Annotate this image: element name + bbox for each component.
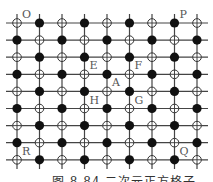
point-label-e: E — [90, 59, 98, 72]
filled-node-icon — [80, 121, 89, 130]
filled-node-icon — [192, 138, 201, 147]
filled-node-icon — [35, 121, 44, 130]
filled-node-icon — [35, 18, 44, 27]
filled-node-icon — [125, 87, 134, 96]
filled-node-icon — [125, 121, 134, 130]
open-cross-node-icon — [58, 53, 67, 62]
open-cross-node-icon — [148, 87, 157, 96]
filled-node-icon — [57, 138, 66, 147]
open-cross-node-icon — [193, 53, 202, 62]
open-cross-node-icon — [103, 121, 112, 130]
open-cross-node-icon — [58, 156, 67, 165]
filled-node-icon — [12, 36, 21, 45]
filled-node-icon — [80, 53, 89, 62]
filled-node-icon — [102, 70, 111, 79]
filled-node-icon — [170, 18, 179, 27]
open-cross-node-icon — [170, 104, 179, 113]
filled-node-icon — [57, 36, 66, 45]
filled-node-icon — [147, 138, 156, 147]
open-cross-node-icon — [125, 104, 134, 113]
filled-node-icon — [12, 70, 21, 79]
open-cross-node-icon — [35, 138, 44, 147]
open-cross-node-icon — [170, 138, 179, 147]
filled-node-icon — [147, 104, 156, 113]
figure-caption: 图 8.84 二次元正方格子 — [52, 172, 196, 182]
filled-node-icon — [35, 155, 44, 164]
filled-node-icon — [57, 104, 66, 113]
open-cross-node-icon — [13, 121, 22, 130]
open-cross-node-icon — [35, 104, 44, 113]
open-cross-node-icon — [13, 87, 22, 96]
open-cross-node-icon — [148, 53, 157, 62]
filled-node-icon — [102, 36, 111, 45]
point-label-o: O — [22, 8, 31, 21]
open-cross-node-icon — [103, 87, 112, 96]
filled-node-icon — [170, 155, 179, 164]
open-cross-node-icon — [193, 87, 202, 96]
open-cross-node-icon — [13, 19, 22, 28]
filled-node-icon — [192, 70, 201, 79]
open-cross-node-icon — [125, 36, 134, 45]
point-label-h: H — [90, 94, 100, 107]
filled-node-icon — [170, 53, 179, 62]
filled-node-icon — [192, 104, 201, 113]
filled-node-icon — [102, 138, 111, 147]
open-cross-node-icon — [193, 121, 202, 130]
square-lattice-diagram: OPEFAHGRQ — [0, 0, 213, 182]
filled-node-icon — [125, 53, 134, 62]
filled-node-icon — [80, 18, 89, 27]
filled-node-icon — [57, 70, 66, 79]
point-label-g: G — [135, 94, 144, 107]
open-cross-node-icon — [103, 53, 112, 62]
filled-node-icon — [12, 138, 21, 147]
filled-node-icon — [35, 53, 44, 62]
point-label-p: P — [180, 8, 188, 21]
open-cross-node-icon — [80, 104, 89, 113]
point-label-a: A — [111, 76, 121, 89]
open-cross-node-icon — [13, 156, 22, 165]
open-cross-node-icon — [148, 156, 157, 165]
open-cross-node-icon — [35, 36, 44, 45]
open-cross-node-icon — [103, 156, 112, 165]
filled-node-icon — [170, 87, 179, 96]
open-cross-node-icon — [80, 138, 89, 147]
filled-node-icon — [170, 121, 179, 130]
open-cross-node-icon — [13, 53, 22, 62]
open-cross-node-icon — [125, 138, 134, 147]
open-cross-node-icon — [193, 19, 202, 28]
open-cross-node-icon — [125, 70, 134, 79]
open-cross-node-icon — [80, 36, 89, 45]
point-labels: OPEFAHGRQ — [22, 8, 189, 158]
open-cross-node-icon — [103, 19, 112, 28]
filled-node-icon — [80, 87, 89, 96]
filled-node-icon — [102, 104, 111, 113]
open-cross-node-icon — [80, 70, 89, 79]
filled-node-icon — [192, 36, 201, 45]
point-label-r: R — [22, 145, 31, 158]
filled-node-icon — [147, 36, 156, 45]
filled-node-icon — [147, 70, 156, 79]
open-cross-node-icon — [35, 70, 44, 79]
open-cross-node-icon — [58, 87, 67, 96]
open-cross-node-icon — [148, 19, 157, 28]
filled-node-icon — [80, 155, 89, 164]
open-cross-node-icon — [170, 70, 179, 79]
open-cross-node-icon — [170, 36, 179, 45]
open-cross-node-icon — [148, 121, 157, 130]
filled-node-icon — [125, 155, 134, 164]
open-cross-node-icon — [58, 19, 67, 28]
filled-node-icon — [125, 18, 134, 27]
open-cross-node-icon — [58, 121, 67, 130]
filled-node-icon — [35, 87, 44, 96]
point-label-f: F — [135, 59, 143, 72]
filled-node-icon — [12, 104, 21, 113]
open-cross-node-icon — [193, 156, 202, 165]
lattice-nodes — [12, 18, 201, 164]
point-label-q: Q — [180, 145, 189, 158]
